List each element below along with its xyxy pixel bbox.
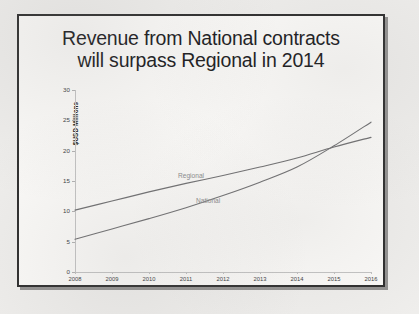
series-label-regional: Regional (178, 172, 204, 179)
y-tick-mark (72, 181, 75, 182)
y-tick-mark (72, 151, 75, 152)
x-tick-mark (260, 272, 261, 274)
x-tick-label: 2010 (132, 276, 166, 282)
x-tick-label: 2014 (280, 276, 314, 282)
y-tick-mark (72, 211, 75, 212)
x-tick-label: 2016 (354, 276, 388, 282)
slide-frame: Revenue from National contracts will sur… (17, 14, 385, 287)
y-tick-mark (72, 120, 75, 121)
x-tick-label: 2011 (169, 276, 203, 282)
y-tick-mark (72, 90, 75, 91)
series-line-regional (75, 137, 371, 210)
series-label-national: National (196, 197, 220, 204)
y-tick-mark (72, 242, 75, 243)
series-container (19, 16, 387, 289)
x-tick-mark (334, 272, 335, 274)
y-tick-label: 30 (46, 86, 70, 93)
x-tick-mark (223, 272, 224, 274)
x-tick-mark (75, 272, 76, 274)
y-tick-label: 20 (46, 147, 70, 154)
x-tick-mark (297, 272, 298, 274)
chart-plot-area: $USD Millions Regional National 05101520… (19, 16, 387, 289)
x-tick-label: 2015 (317, 276, 351, 282)
y-tick-label: 10 (46, 207, 70, 214)
y-tick-label: 0 (46, 268, 70, 275)
x-tick-label: 2012 (206, 276, 240, 282)
series-line-national (75, 122, 371, 239)
x-tick-mark (186, 272, 187, 274)
x-tick-label: 2008 (58, 276, 92, 282)
x-tick-mark (371, 272, 372, 274)
x-tick-label: 2013 (243, 276, 277, 282)
y-tick-label: 25 (46, 116, 70, 123)
y-tick-label: 5 (46, 238, 70, 245)
y-tick-label: 15 (46, 177, 70, 184)
x-tick-mark (112, 272, 113, 274)
x-tick-mark (149, 272, 150, 274)
x-tick-label: 2009 (95, 276, 129, 282)
